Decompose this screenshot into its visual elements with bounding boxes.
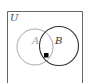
intersection-marker xyxy=(44,53,49,58)
set-a-label: A xyxy=(31,35,39,46)
venn-diagram: U A B xyxy=(0,0,89,83)
set-b-circle xyxy=(40,27,79,66)
set-b-label: B xyxy=(54,35,62,46)
universe-label: U xyxy=(10,12,19,23)
universe-box xyxy=(8,12,83,84)
